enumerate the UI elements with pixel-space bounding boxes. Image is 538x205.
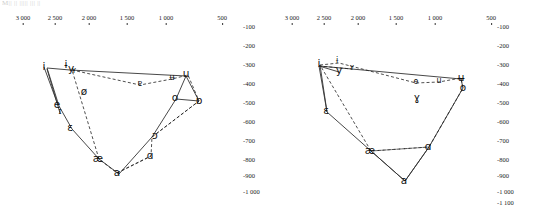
vowel-charts-figure: M|| || ||||| ||| || 3 0002 5002 0001 500… (0, 0, 538, 205)
vowel-chart-right: 3 0002 5002 0001 5001 000500 -100-200-30… (269, 0, 538, 205)
vowel-symbol: ʏ (350, 64, 355, 72)
plot-area-left: -100-200-300-400-500-600-700-800-900-1 0… (0, 0, 269, 205)
vowel-symbol: ɒ (196, 95, 203, 106)
vowel-symbol: ɣ (414, 92, 420, 103)
vowel-symbol: o (172, 92, 178, 103)
dashed-polygon (320, 63, 463, 151)
vowel-symbol: ʏ (72, 67, 77, 75)
vowel-chart-left: 3 0002 5002 0001 5001 000500 -100-200-30… (0, 0, 269, 205)
vowel-symbol: ʉ (458, 72, 465, 83)
vowel-symbol: i (318, 58, 321, 69)
vowel-symbol: o (460, 82, 466, 93)
vowel-symbol: ɵ (414, 78, 419, 86)
vowel-symbol: ɔ (152, 130, 158, 141)
vowel-symbol: a (401, 175, 407, 186)
vowel-symbol: ʉ (169, 74, 174, 82)
vowel-symbol: i (43, 61, 46, 72)
vowel-symbol: a (114, 167, 120, 178)
vowel-symbol: u (183, 68, 190, 79)
solid-polygon (405, 147, 429, 181)
vowel-polygon-layer (0, 0, 269, 205)
vowel-symbol: ɑ (147, 150, 154, 161)
vowel-symbol: ø (81, 86, 87, 97)
vowel-symbol: ɑ (425, 141, 432, 152)
vowel-symbol: y (336, 65, 342, 76)
dashed-polygon (152, 101, 199, 137)
vowel-symbol: ɪ (59, 108, 62, 116)
vowel-symbol: ɛ (323, 105, 329, 116)
vowel-symbol: æ (93, 153, 103, 164)
vowel-symbol: ɛ (67, 122, 73, 133)
dashed-polygon (72, 70, 199, 173)
plot-area-right: -100-200-300-400-500-600-700-800-900-1 0… (269, 0, 538, 205)
vowel-symbol: æ (365, 145, 375, 156)
vowel-symbol: u (436, 77, 441, 85)
vowel-symbol: ɐ (138, 80, 143, 88)
